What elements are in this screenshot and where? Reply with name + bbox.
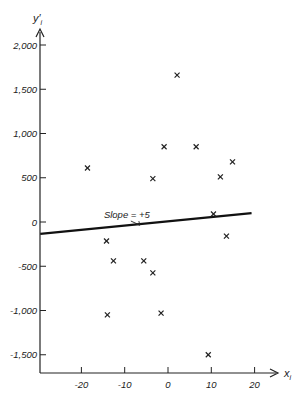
x-marker-icon (194, 144, 199, 149)
x-marker-icon (224, 234, 229, 239)
x-tick-label: 20 (248, 379, 260, 390)
y-tick-label: 500 (21, 172, 38, 183)
x-tick-label: 0 (165, 379, 171, 390)
y-axis-label: y′i (32, 12, 43, 26)
x-marker-icon (211, 212, 216, 217)
y-tick-label: 1,500 (13, 84, 37, 95)
y-tick-label: 0 (32, 217, 38, 228)
x-marker-icon (85, 166, 90, 171)
y-tick-label: 2,000 (12, 40, 37, 51)
x-tick-label: 10 (206, 379, 217, 390)
y-tick-label: 1,000 (13, 128, 37, 139)
y-tick-label: -500 (18, 261, 38, 272)
x-marker-icon (159, 311, 164, 316)
x-tick-label: -20 (75, 379, 89, 390)
x-marker-icon (150, 176, 155, 181)
x-marker-icon (206, 352, 211, 357)
x-marker-icon (111, 258, 116, 263)
x-marker-icon (104, 239, 109, 244)
y-tick-label: -1,000 (10, 305, 38, 316)
x-marker-icon (150, 270, 155, 275)
x-tick-label: -10 (118, 379, 132, 390)
x-axis-label: xi (283, 367, 292, 381)
axes (36, 29, 278, 377)
x-marker-icon (141, 258, 146, 263)
x-marker-icon (218, 174, 223, 179)
x-marker-icon (162, 144, 167, 149)
x-marker-icon (105, 312, 110, 317)
y-tick-label: -1,500 (10, 349, 38, 360)
slope-label: Slope = +5 (104, 209, 151, 220)
x-marker-icon (230, 159, 235, 164)
x-marker-icon (175, 73, 180, 78)
scatter-chart: 2,0001,5001,0005000-500-1,000-1,500-20-1… (0, 0, 305, 401)
